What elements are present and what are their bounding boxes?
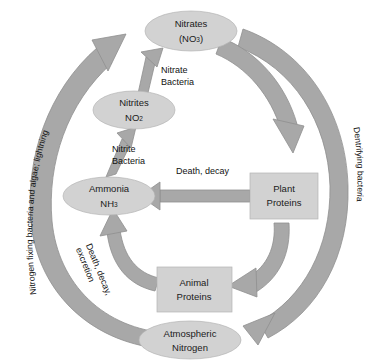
node-nitrates-label-line1: Nitrates	[175, 18, 208, 29]
node-ammonia-label-line1: Ammonia	[89, 183, 130, 194]
edge-label-nitrite-bacteria-line2: Bacteria	[112, 156, 145, 166]
arc-label-denitrifying: Dentrifying bacteria	[351, 126, 365, 202]
node-nitrates: Nitrates (NO3)	[145, 11, 237, 51]
node-nitrites-label-line1: Nitrites	[119, 97, 149, 108]
arrow-plant-proteins-to-ammonia	[140, 182, 250, 210]
node-plant-proteins: Plant Proteins	[250, 173, 318, 219]
node-plant-proteins-label-line1: Plant	[273, 183, 295, 194]
node-ammonia-formula-sub: 3	[114, 201, 118, 208]
edge-label-nitrate-bacteria-line1: Nitrate	[161, 65, 188, 75]
node-nitrites-formula-sub: 2	[139, 115, 143, 122]
node-plant-proteins-label-line2: Proteins	[267, 197, 302, 208]
edge-label-nitrite-bacteria-line1: Nitrite	[112, 144, 136, 154]
arrow-plant-to-animal-proteins	[228, 223, 289, 297]
node-nitrites: Nitrites NO2	[93, 91, 175, 129]
arc-label-denitrifying-text: Dentrifying bacteria	[351, 126, 365, 202]
edge-label-nitrate-bacteria-line2: Bacteria	[161, 77, 194, 87]
node-nitrates-formula: (NO3)	[179, 33, 203, 44]
edge-label-death-decay: Death, decay	[176, 166, 230, 176]
node-ammonia: Ammonia NH3	[63, 177, 155, 215]
node-nitrites-formula-main: NO	[125, 112, 139, 123]
node-atmospheric-nitrogen: Atmospheric Nitrogen	[139, 321, 241, 359]
nitrogen-cycle-diagram: Nitrates (NO3) Nitrites NO2 Ammonia NH3 …	[0, 0, 379, 363]
node-nitrates-formula-tail: )	[200, 33, 203, 44]
node-animal-proteins-label-line1: Animal	[179, 277, 208, 288]
node-ammonia-formula-main: NH	[100, 198, 114, 209]
cycle-svg-canvas: Nitrates (NO3) Nitrites NO2 Ammonia NH3 …	[0, 0, 379, 363]
node-atmospheric-nitrogen-label-line2: Nitrogen	[172, 342, 208, 353]
node-atmospheric-nitrogen-label-line1: Atmospheric	[164, 328, 217, 339]
node-animal-proteins-label-line2: Proteins	[177, 291, 212, 302]
arrow-nitrites-to-nitrates	[137, 48, 163, 98]
node-nitrates-formula-main: (NO	[179, 33, 196, 44]
node-animal-proteins: Animal Proteins	[157, 267, 232, 312]
